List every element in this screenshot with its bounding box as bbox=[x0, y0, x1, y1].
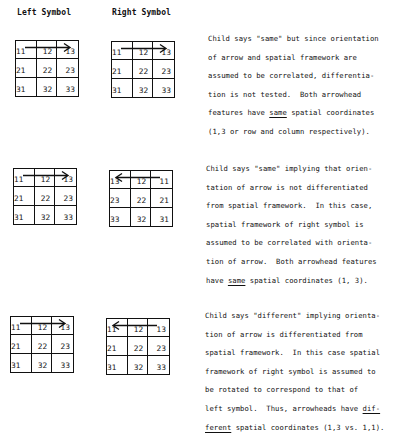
explanation-line: from spatial framework. In this case, bbox=[206, 197, 377, 216]
text-segment: Child says "same" but since orientation bbox=[208, 34, 379, 43]
explanation-line: tion of arrow is differentiated from bbox=[205, 326, 384, 345]
cell-coordinate: 21 bbox=[159, 196, 169, 205]
cell-coordinate: 23 bbox=[65, 66, 75, 75]
emphasized-word: dif- bbox=[363, 404, 381, 413]
grid-cell: 31 bbox=[16, 78, 37, 96]
cell-coordinate: 13 bbox=[65, 47, 75, 56]
grid-cell: 23 bbox=[57, 59, 78, 77]
text-segment: assumed to be correlated, differentia- bbox=[208, 71, 374, 80]
explanation-line: ferent spatial coordinates (1,3 vs. 1,1)… bbox=[205, 419, 384, 436]
explanation-line: Child says "different" implying orienta- bbox=[205, 307, 384, 326]
cell-coordinate: 21 bbox=[16, 66, 26, 75]
grid-cell: 23 bbox=[110, 189, 131, 207]
grid-cell: 13 bbox=[55, 169, 76, 187]
cell-coordinate: 31 bbox=[14, 213, 24, 222]
cell-coordinate: 32 bbox=[41, 213, 51, 222]
cell-coordinate: 12 bbox=[43, 47, 53, 56]
explanation-line: be rotated to correspond to that of bbox=[205, 381, 384, 400]
text-segment: of arrow and spatial framework are bbox=[208, 53, 357, 62]
explanation-paragraph: Child says "different" implying orienta-… bbox=[205, 307, 384, 436]
text-segment: tation of arrow is not differentiated bbox=[206, 183, 368, 192]
grid-cell: 11 bbox=[112, 42, 133, 60]
explanation-line: framework of right symbol is assumed to bbox=[205, 363, 384, 382]
cell-coordinate: 13 bbox=[156, 325, 166, 334]
cell-coordinate: 33 bbox=[63, 213, 73, 222]
grid-cell: 13 bbox=[110, 171, 131, 189]
grid-cell: 13 bbox=[52, 317, 73, 335]
grid-cell: 11 bbox=[16, 41, 37, 59]
grid-cell: 32 bbox=[32, 354, 53, 372]
cell-coordinate: 11 bbox=[11, 323, 21, 332]
cell-coordinate: 11 bbox=[14, 175, 24, 184]
cell-coordinate: 13 bbox=[110, 177, 120, 186]
text-segment: spatial framework of right symbol is bbox=[206, 220, 364, 229]
cell-coordinate: 33 bbox=[110, 215, 120, 224]
text-segment: spatial framework. In this case spatial bbox=[205, 348, 380, 357]
explanation-line: left symbol. Thus, arrowheads have dif- bbox=[205, 400, 384, 419]
explanation-line: features have same spatial coordinates bbox=[208, 104, 379, 123]
grid-cell: 11 bbox=[14, 169, 35, 187]
cell-coordinate: 32 bbox=[38, 361, 48, 370]
explanation-paragraph: Child says "same" but since orientationo… bbox=[208, 30, 379, 142]
grid-cell: 31 bbox=[151, 208, 172, 226]
explanation-line: have same spatial coordinates (1, 3). bbox=[206, 272, 377, 291]
cell-coordinate: 13 bbox=[63, 175, 73, 184]
cell-coordinate: 12 bbox=[139, 48, 149, 57]
cell-coordinate: 32 bbox=[137, 215, 147, 224]
text-segment: tion is not tested. Both arrowhead bbox=[208, 90, 361, 99]
grid-cell: 22 bbox=[35, 187, 56, 205]
cell-coordinate: 21 bbox=[11, 342, 21, 351]
grid-cell: 21 bbox=[112, 60, 133, 78]
emphasized-word: ferent bbox=[205, 423, 231, 432]
emphasized-word: same bbox=[228, 276, 246, 285]
cell-coordinate: 23 bbox=[110, 196, 120, 205]
left-symbol-grid: 111213212223313233 bbox=[13, 168, 77, 225]
grid-cell: 21 bbox=[151, 189, 172, 207]
cell-coordinate: 13 bbox=[161, 48, 171, 57]
cell-coordinate: 12 bbox=[137, 177, 147, 186]
grid-cell: 22 bbox=[133, 60, 154, 78]
cell-coordinate: 22 bbox=[139, 67, 149, 76]
grid-cell: 21 bbox=[16, 59, 37, 77]
explanation-line: Child says "same" but since orientation bbox=[208, 30, 379, 49]
cell-coordinate: 31 bbox=[11, 361, 21, 370]
explanation-line: tion of arrow. Both arrowhead features bbox=[206, 253, 377, 272]
explanation-line: spatial framework of right symbol is bbox=[206, 216, 377, 235]
grid-cell: 12 bbox=[131, 171, 152, 189]
cell-coordinate: 21 bbox=[14, 194, 24, 203]
cell-coordinate: 33 bbox=[65, 85, 75, 94]
grid-cell: 23 bbox=[52, 335, 73, 353]
left-symbol-grid: 111213212223313233 bbox=[15, 40, 79, 97]
explanation-line: of arrow and spatial framework are bbox=[208, 49, 379, 68]
text-segment: framework of right symbol is assumed to bbox=[205, 367, 376, 376]
grid-cell: 32 bbox=[35, 206, 56, 224]
grid-cell: 11 bbox=[107, 319, 128, 337]
grid-cell: 32 bbox=[133, 79, 154, 97]
grid-cell: 31 bbox=[11, 354, 32, 372]
explanation-line: assumed to be correlated with orienta- bbox=[206, 234, 377, 253]
cell-coordinate: 32 bbox=[43, 85, 53, 94]
cell-coordinate: 12 bbox=[41, 175, 51, 184]
cell-coordinate: 12 bbox=[134, 325, 144, 334]
header-left-symbol: Left Symbol bbox=[17, 8, 71, 17]
text-segment: be rotated to correspond to that of bbox=[205, 385, 358, 394]
text-segment: (1,3 or row and column respectively). bbox=[208, 127, 370, 136]
cell-coordinate: 23 bbox=[161, 67, 171, 76]
grid-cell: 21 bbox=[11, 335, 32, 353]
grid-cell: 31 bbox=[112, 79, 133, 97]
cell-coordinate: 22 bbox=[137, 196, 147, 205]
cell-coordinate: 13 bbox=[60, 323, 70, 332]
cell-coordinate: 22 bbox=[134, 344, 144, 353]
cell-coordinate: 11 bbox=[107, 325, 117, 334]
grid-cell: 33 bbox=[153, 79, 174, 97]
cell-coordinate: 31 bbox=[159, 215, 169, 224]
cell-coordinate: 31 bbox=[107, 363, 117, 372]
grid-cell: 32 bbox=[128, 356, 149, 374]
text-segment: from spatial framework. In this case, bbox=[206, 201, 372, 210]
right-symbol-grid: 111213212223313233 bbox=[106, 318, 170, 375]
cell-coordinate: 11 bbox=[159, 177, 169, 186]
grid-cell: 31 bbox=[107, 356, 128, 374]
text-segment: tion of arrow is differentiated from bbox=[205, 330, 363, 339]
explanation-line: tion is not tested. Both arrowhead bbox=[208, 86, 379, 105]
explanation-line: Child says "same" implying that orien- bbox=[206, 160, 377, 179]
